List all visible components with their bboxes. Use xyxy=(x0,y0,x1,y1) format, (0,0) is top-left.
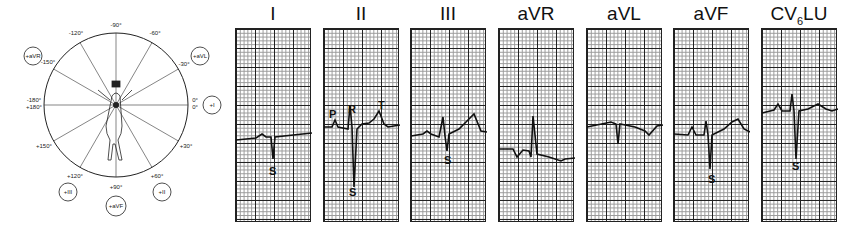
ecg-strip-avf: S xyxy=(673,28,749,222)
svg-text:+II: +II xyxy=(159,189,166,195)
ecg-strip-avr xyxy=(498,28,574,222)
svg-text:-30°: -30° xyxy=(178,61,190,67)
wave-label-s: S xyxy=(269,165,276,177)
svg-text:-90°: -90° xyxy=(110,22,122,28)
svg-text:+aVF: +aVF xyxy=(109,203,124,209)
svg-text:0°: 0° xyxy=(192,104,198,110)
ecg-strip-ii: P R T S xyxy=(323,28,399,222)
ecg-trace-avr xyxy=(499,29,575,223)
svg-text:+aVL: +aVL xyxy=(193,53,208,59)
ecg-trace-cv6lu xyxy=(762,29,838,223)
ecg-trace-ii xyxy=(324,29,400,223)
wave-label-p: P xyxy=(329,108,336,120)
lead-title-ii: II xyxy=(323,2,399,26)
wave-label-s: S xyxy=(792,160,799,172)
ecg-trace-avf xyxy=(674,29,750,223)
wave-label-s: S xyxy=(444,154,451,166)
svg-text:+180°: +180° xyxy=(26,104,43,110)
ecg-trace-iii xyxy=(411,29,487,223)
svg-text:+aVR: +aVR xyxy=(25,53,41,59)
svg-text:-180°: -180° xyxy=(27,97,42,103)
ecg-trace-i xyxy=(236,29,312,223)
svg-text:0°: 0° xyxy=(192,97,198,103)
wave-label-s: S xyxy=(349,186,356,198)
lead-title-cv6lu: CV6LU xyxy=(761,2,837,26)
svg-text:-150°: -150° xyxy=(41,59,56,65)
dog-silhouette xyxy=(98,81,132,160)
ecg-strip-cv6lu: S xyxy=(761,28,837,222)
svg-text:+60°: +60° xyxy=(151,173,164,179)
lead-title-i: I xyxy=(235,2,311,26)
lead-title-avf: aVF xyxy=(673,2,749,26)
svg-text:+150°: +150° xyxy=(36,143,53,149)
wave-label-s: S xyxy=(708,173,715,185)
wave-label-r: R xyxy=(348,103,356,115)
hexaxial-diagram: -90° -60° -30° 0° 0° +30° +60° +90° +120… xyxy=(0,0,225,234)
ecg-strip-avl xyxy=(586,28,662,222)
lead-title-avl: aVL xyxy=(586,2,662,26)
ecg-trace-avl xyxy=(587,29,663,223)
ecg-strip-iii: S xyxy=(410,28,486,222)
svg-text:+30°: +30° xyxy=(180,143,193,149)
svg-text:+III: +III xyxy=(64,189,73,195)
lead-title-avr: aVR xyxy=(498,2,574,26)
wave-label-t: T xyxy=(378,99,385,111)
svg-text:-120°: -120° xyxy=(69,30,84,36)
lead-title-iii: III xyxy=(410,2,486,26)
svg-text:+120°: +120° xyxy=(67,173,84,179)
ecg-strip-i: S xyxy=(235,28,311,222)
svg-text:+I: +I xyxy=(209,102,215,108)
svg-text:-60°: -60° xyxy=(149,30,161,36)
svg-text:+90°: +90° xyxy=(110,184,123,190)
